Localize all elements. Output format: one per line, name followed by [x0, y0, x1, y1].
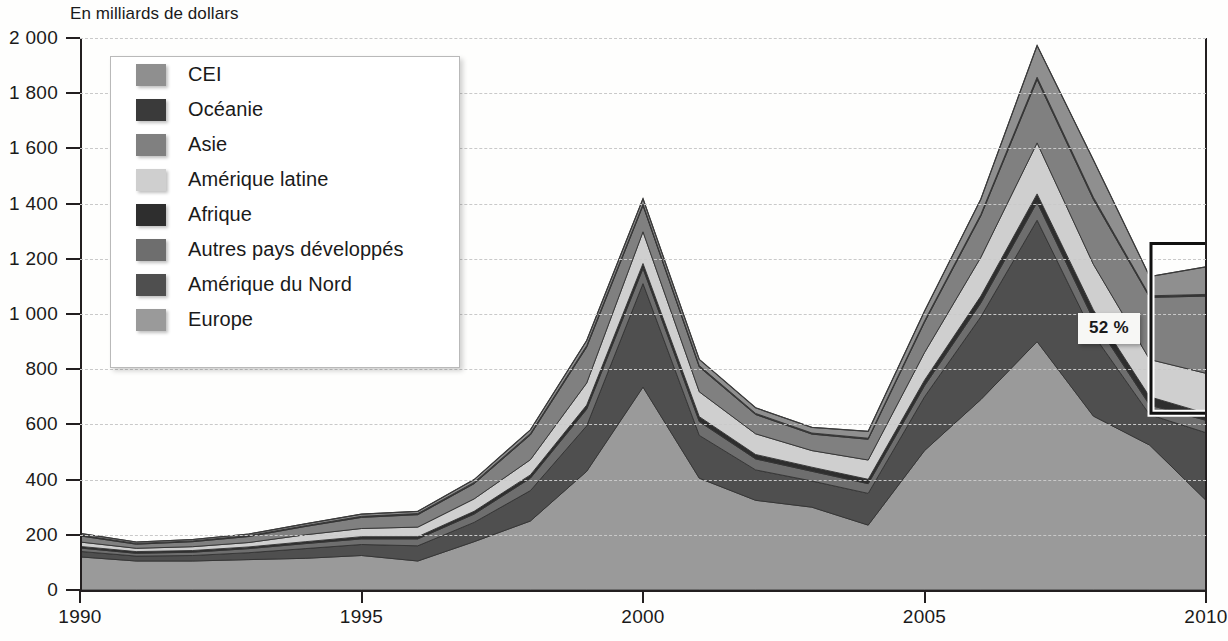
annotation-label-52-percent: 52 %	[1078, 313, 1140, 344]
bracket-stroke	[1151, 244, 1205, 414]
bracket-stroke	[1151, 244, 1205, 414]
